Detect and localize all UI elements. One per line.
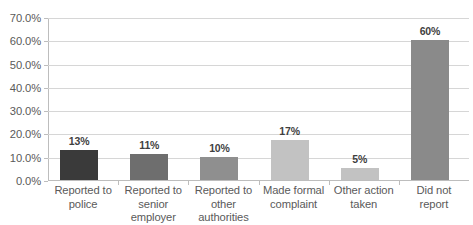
category-label-line: authorities <box>188 211 258 225</box>
x-axis-category-label: Reported tootherauthorities <box>188 184 258 225</box>
bar-value-label: 60% <box>420 25 440 37</box>
category-label-line: Other action <box>329 184 399 198</box>
bar: 10% <box>200 157 238 180</box>
category-label-line: police <box>48 198 118 212</box>
gridline <box>48 18 469 19</box>
gridline <box>48 134 469 135</box>
y-axis-tick-mark <box>44 181 48 182</box>
x-axis-category-label: Reported tosenioremployer <box>118 184 188 225</box>
x-axis-category-labels: Reported topoliceReported tosenioremploy… <box>48 184 469 225</box>
bar-value-label: 17% <box>279 125 299 137</box>
y-axis-tick-mark <box>44 65 48 66</box>
bar: 5% <box>341 168 379 180</box>
gridline <box>48 88 469 89</box>
y-axis-tick-mark <box>44 41 48 42</box>
category-label-line: Did not <box>399 184 469 198</box>
y-axis-tick-label: 40.0% <box>10 82 41 94</box>
category-label-line: other <box>188 198 258 212</box>
bar-value-label: 5% <box>352 153 367 165</box>
y-axis-tick-label: 30.0% <box>10 105 41 117</box>
bar-chart: 0.0%10.0%20.0%30.0%40.0%50.0%60.0%70.0% … <box>0 0 473 225</box>
gridline <box>48 158 469 159</box>
y-axis-labels: 0.0%10.0%20.0%30.0%40.0%50.0%60.0%70.0% <box>0 0 48 225</box>
bar-value-label: 10% <box>209 142 229 154</box>
bar: 13% <box>60 150 98 180</box>
y-axis-tick-mark <box>44 158 48 159</box>
y-axis-tick-label: 20.0% <box>10 128 41 140</box>
x-axis-category-label: Made formalcomplaint <box>259 184 329 211</box>
y-axis-line <box>48 18 49 181</box>
category-label-line: Reported to <box>188 184 258 198</box>
category-label-line: employer <box>118 211 188 225</box>
gridline <box>48 65 469 66</box>
x-axis-category-label: Other actiontaken <box>329 184 399 211</box>
x-axis-category-label: Reported topolice <box>48 184 118 211</box>
y-axis-tick-label: 60.0% <box>10 35 41 47</box>
gridline <box>48 111 469 112</box>
bar: 17% <box>271 140 309 180</box>
plot-area: 13%11%10%17%5%60% <box>48 18 469 181</box>
y-axis-tick-label: 50.0% <box>10 59 41 71</box>
category-label-line: Made formal <box>259 184 329 198</box>
y-axis-tick-mark <box>44 18 48 19</box>
y-axis-tick-mark <box>44 134 48 135</box>
category-label-line: report <box>399 198 469 212</box>
y-axis-tick-mark <box>44 111 48 112</box>
y-axis-tick-label: 10.0% <box>10 152 41 164</box>
category-label-line: senior <box>118 198 188 212</box>
x-axis-category-label: Did notreport <box>399 184 469 211</box>
category-label-line: taken <box>329 198 399 212</box>
y-axis-tick-label: 70.0% <box>10 12 41 24</box>
y-axis-tick-mark <box>44 88 48 89</box>
bar-value-label: 11% <box>139 139 159 151</box>
bar: 11% <box>130 154 168 180</box>
bar-value-label: 13% <box>69 135 89 147</box>
category-label-line: Reported to <box>118 184 188 198</box>
category-label-line: complaint <box>259 198 329 212</box>
category-label-line: Reported to <box>48 184 118 198</box>
bar: 60% <box>411 40 449 180</box>
gridline <box>48 41 469 42</box>
y-axis-tick-label: 0.0% <box>16 175 41 187</box>
